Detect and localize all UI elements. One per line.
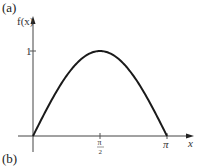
series-line-fx — [33, 51, 167, 136]
y-tick-label-1: 1 — [26, 45, 32, 57]
chart: f(x) x 1 π 2 π — [0, 0, 197, 167]
x-tick-label-pi-over-2-den: 2 — [99, 148, 103, 156]
x-tick-label-pi-over-2-num: π — [98, 138, 102, 147]
y-axis-label: f(x) — [17, 15, 34, 28]
x-axis-label: x — [187, 137, 193, 149]
x-tick-label-pi: π — [163, 138, 169, 150]
